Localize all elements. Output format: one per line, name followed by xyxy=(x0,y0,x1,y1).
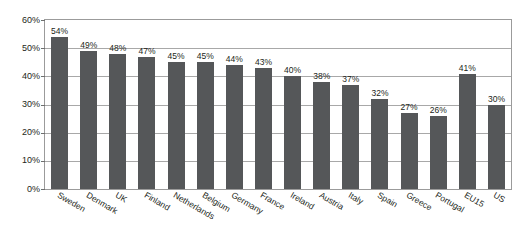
bar xyxy=(430,116,447,189)
bar xyxy=(401,113,418,189)
bar-value-label: 40% xyxy=(278,66,307,75)
bar-group: 49% xyxy=(74,20,103,189)
bar xyxy=(226,65,243,189)
bar xyxy=(284,76,301,189)
y-axis-labels: 0%10%20%30%40%50%60% xyxy=(0,0,40,249)
bar-group: 54% xyxy=(45,20,74,189)
bar-group: 43% xyxy=(249,20,278,189)
bar-value-label: 41% xyxy=(453,64,482,73)
x-axis-category-label: Austria xyxy=(307,191,336,201)
bar xyxy=(168,62,185,189)
bar xyxy=(488,105,505,190)
bar xyxy=(342,85,359,189)
x-axis-category-label: Ireland xyxy=(278,191,307,201)
bar-group: 41% xyxy=(453,20,482,189)
y-axis-tick-label: 40% xyxy=(2,72,40,81)
bar-value-label: 37% xyxy=(336,75,365,84)
x-axis-category-label: Portugal xyxy=(424,191,453,201)
bar-chart: 0%10%20%30%40%50%60% 54%49%48%47%45%45%4… xyxy=(0,0,532,249)
bar xyxy=(80,51,97,189)
bar-value-label: 45% xyxy=(162,52,191,61)
x-axis-category-text: UK xyxy=(113,190,128,205)
x-axis-category-label: UK xyxy=(103,191,132,201)
bar-value-label: 45% xyxy=(191,52,220,61)
bar xyxy=(313,82,330,189)
y-axis-tick-label: 30% xyxy=(2,100,40,109)
x-axis-category-label: France xyxy=(249,191,278,201)
bar-value-label: 54% xyxy=(45,27,74,36)
bar-value-label: 26% xyxy=(424,106,453,115)
bar-group: 30% xyxy=(482,20,511,189)
bar-group: 45% xyxy=(162,20,191,189)
bar xyxy=(197,62,214,189)
bar-group: 32% xyxy=(365,20,394,189)
y-axis-tick xyxy=(41,189,45,190)
x-axis-category-label: Netherlands xyxy=(162,191,191,201)
x-axis-category-text: US xyxy=(492,190,507,205)
bar-value-label: 43% xyxy=(249,58,278,67)
x-axis-category-label: EU15 xyxy=(453,191,482,201)
bar-group: 44% xyxy=(220,20,249,189)
bar-value-label: 48% xyxy=(103,44,132,53)
bar-group: 45% xyxy=(191,20,220,189)
bar-group: 27% xyxy=(395,20,424,189)
x-axis-category-text: Italy xyxy=(346,190,365,206)
y-axis-tick-label: 20% xyxy=(2,128,40,137)
bar-group: 40% xyxy=(278,20,307,189)
bar-group: 38% xyxy=(307,20,336,189)
x-axis-category-label: US xyxy=(482,191,511,201)
x-axis-category-label: Greece xyxy=(395,191,424,201)
bar-value-label: 47% xyxy=(132,47,161,56)
y-axis-tick-label: 10% xyxy=(2,156,40,165)
bars-layer: 54%49%48%47%45%45%44%43%40%38%37%32%27%2… xyxy=(45,20,511,189)
y-axis-tick-label: 0% xyxy=(2,185,40,194)
bar-group: 47% xyxy=(132,20,161,189)
x-axis-category-label: Denmark xyxy=(74,191,103,201)
bar-value-label: 49% xyxy=(74,41,103,50)
x-axis-category-label: Finland xyxy=(132,191,161,201)
bar xyxy=(459,74,476,189)
bar xyxy=(138,57,155,189)
y-axis-tick-label: 60% xyxy=(2,16,40,25)
x-axis-category-label: Belgium xyxy=(191,191,220,201)
bar-value-label: 27% xyxy=(395,103,424,112)
y-axis-tick-label: 50% xyxy=(2,44,40,53)
bar xyxy=(51,37,68,189)
bar xyxy=(255,68,272,189)
bar xyxy=(109,54,126,189)
bar-group: 26% xyxy=(424,20,453,189)
bar-value-label: 38% xyxy=(307,72,336,81)
x-axis-category-label: Sweden xyxy=(45,191,74,201)
bar xyxy=(371,99,388,189)
x-axis-category-label: Italy xyxy=(336,191,365,201)
bar-value-label: 44% xyxy=(220,55,249,64)
bar-value-label: 32% xyxy=(365,89,394,98)
x-axis-labels: SwedenDenmarkUKFinlandNetherlandsBelgium… xyxy=(45,191,511,249)
x-axis-category-label: Spain xyxy=(365,191,394,201)
bar-group: 48% xyxy=(103,20,132,189)
bar-group: 37% xyxy=(336,20,365,189)
bar-value-label: 30% xyxy=(482,95,511,104)
x-axis-category-label: Germany xyxy=(220,191,249,201)
